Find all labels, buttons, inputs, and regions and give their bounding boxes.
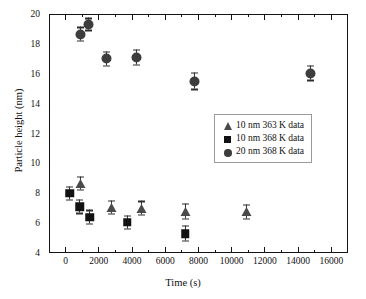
- data-point-square: [79, 206, 80, 207]
- legend-label: 10 nm 363 K data: [236, 119, 304, 132]
- data-point-square: [127, 222, 128, 223]
- legend-circle-icon: [220, 145, 236, 158]
- y-tick-label: 6: [0, 218, 40, 228]
- x-tick-top: [165, 14, 166, 20]
- error-bar-cap-bottom: [307, 80, 314, 81]
- y-tick-label: 4: [0, 248, 40, 258]
- error-bar-cap-bottom: [182, 218, 189, 219]
- legend-item: 10 nm 363 K data: [220, 119, 304, 132]
- x-axis-title: Time (s): [0, 277, 366, 288]
- error-bar-cap-bottom: [77, 40, 84, 41]
- y-tick-label: 20: [0, 9, 40, 19]
- data-point-circle: [136, 57, 137, 58]
- legend-item: 20 nm 368 K data: [220, 145, 304, 158]
- error-bar-cap-top: [138, 201, 145, 202]
- marker-circle: [131, 52, 141, 62]
- x-tick-top: [298, 14, 299, 20]
- error-bar-cap-bottom: [124, 229, 131, 230]
- data-point-circle: [194, 81, 195, 82]
- error-bar-cap-top: [103, 52, 110, 53]
- x-tick-top: [215, 14, 216, 17]
- marker-square: [181, 229, 190, 238]
- data-point-triangle: [246, 211, 247, 212]
- x-tick-top: [65, 14, 66, 20]
- x-tick-top: [281, 14, 282, 17]
- marker-square: [75, 202, 84, 211]
- error-bar-cap-bottom: [77, 190, 84, 191]
- particle-height-scatter-chart: 0200040006000800010000120001400016000468…: [0, 0, 366, 299]
- legend-symbol: [224, 122, 232, 130]
- error-bar-cap-bottom: [66, 199, 73, 200]
- marker-square: [66, 189, 75, 198]
- x-tick: [115, 250, 116, 253]
- marker-circle: [306, 68, 316, 78]
- error-bar-cap-bottom: [85, 30, 92, 31]
- x-tick-label: 16000: [301, 256, 361, 266]
- marker-square: [85, 213, 94, 222]
- error-bar-cap-top: [86, 210, 93, 211]
- x-tick: [98, 247, 99, 253]
- x-tick: [181, 250, 182, 253]
- marker-circle: [189, 76, 199, 86]
- x-tick: [314, 250, 315, 253]
- x-tick: [264, 247, 265, 253]
- x-tick-top: [82, 14, 83, 17]
- error-bar-cap-bottom: [243, 218, 250, 219]
- error-bar-cap-bottom: [133, 64, 140, 65]
- error-bar-cap-bottom: [182, 241, 189, 242]
- marker-triangle: [180, 207, 190, 216]
- data-point-circle: [80, 34, 81, 35]
- x-tick-top: [98, 14, 99, 20]
- chart-legend: 10 nm 363 K data10 nm 368 K data20 nm 36…: [214, 114, 312, 163]
- error-bar-cap-top: [182, 226, 189, 227]
- x-tick-top: [115, 14, 116, 17]
- data-point-triangle: [185, 211, 186, 212]
- marker-circle: [101, 54, 111, 64]
- error-bar-cap-bottom: [76, 213, 83, 214]
- x-tick: [148, 250, 149, 253]
- data-point-triangle: [80, 183, 81, 184]
- data-point-circle: [88, 24, 89, 25]
- x-tick: [231, 247, 232, 253]
- error-bar-cap-top: [307, 65, 314, 66]
- x-tick-top: [181, 14, 182, 17]
- legend-triangle-icon: [220, 119, 236, 132]
- data-point-square: [69, 193, 70, 194]
- error-bar-cap-top: [108, 200, 115, 201]
- x-tick: [298, 247, 299, 253]
- data-point-circle: [310, 73, 311, 74]
- legend-item: 10 nm 368 K data: [220, 132, 304, 145]
- error-bar-cap-bottom: [191, 89, 198, 90]
- data-point-circle: [106, 58, 107, 59]
- y-axis-title: Particle height (nm): [13, 61, 24, 201]
- x-tick-top: [248, 14, 249, 17]
- x-tick-top: [198, 14, 199, 20]
- x-tick: [248, 250, 249, 253]
- legend-symbol: [224, 149, 232, 157]
- x-tick-top: [331, 14, 332, 20]
- x-tick-top: [314, 14, 315, 17]
- x-tick: [281, 250, 282, 253]
- error-bar-cap-top: [243, 205, 250, 206]
- error-bar-cap-bottom: [103, 65, 110, 66]
- error-bar-cap-top: [191, 73, 198, 74]
- error-bar-cap-bottom: [138, 214, 145, 215]
- x-tick: [82, 250, 83, 253]
- data-point-square: [185, 233, 186, 234]
- legend-symbol: [224, 136, 231, 143]
- error-bar-cap-top: [76, 199, 83, 200]
- data-point-square: [89, 217, 90, 218]
- y-tick-label: 18: [0, 39, 40, 49]
- x-tick-top: [148, 14, 149, 17]
- legend-square-icon: [220, 132, 236, 145]
- data-point-triangle: [141, 208, 142, 209]
- error-bar-cap-top: [133, 49, 140, 50]
- error-bar-cap-bottom: [108, 214, 115, 215]
- error-bar-cap-top: [182, 203, 189, 204]
- data-point-triangle: [111, 207, 112, 208]
- error-bar-cap-bottom: [86, 223, 93, 224]
- marker-triangle: [76, 179, 86, 188]
- legend-label: 10 nm 368 K data: [236, 132, 304, 145]
- marker-circle: [76, 29, 86, 39]
- x-tick: [132, 247, 133, 253]
